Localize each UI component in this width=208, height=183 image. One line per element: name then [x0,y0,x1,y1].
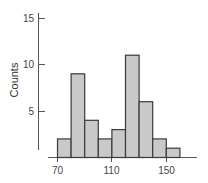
y-tick-label: 10 [23,59,35,70]
histogram-bars [58,55,180,157]
x-axis: 70110150 [48,157,197,176]
y-tick-label: 5 [28,106,34,117]
histogram-bar [126,55,140,157]
histogram-bar [139,102,153,158]
y-axis-title: Counts [8,62,20,97]
histogram-bar [71,74,85,158]
y-tick-label: 15 [23,13,35,24]
histogram-chart: 51015 70110150 Counts [0,0,208,183]
histogram-bar [58,139,72,158]
x-tick-label: 70 [52,165,64,176]
histogram-bar [166,148,180,157]
histogram-bar [85,120,99,157]
histogram-bar [112,130,126,158]
x-tick-label: 150 [158,165,175,176]
histogram-bar [153,139,167,158]
y-axis: 51015 [23,13,45,150]
x-tick-label: 110 [104,165,120,176]
histogram-bar [98,139,112,158]
